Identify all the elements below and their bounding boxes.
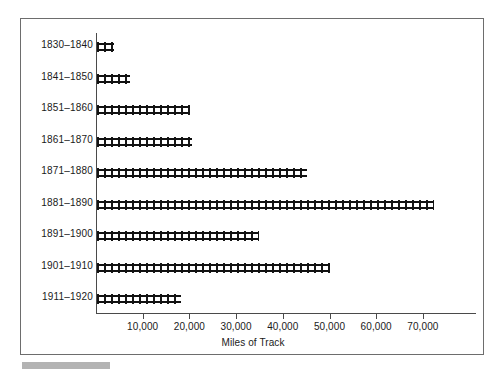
bar-row: 1861–1870 xyxy=(21,137,485,147)
bar-row: 1891–1900 xyxy=(21,231,485,241)
bar-row: 1830–1840 xyxy=(21,42,485,52)
category-label: 1881–1890 xyxy=(41,197,93,208)
caption-swatch xyxy=(22,362,110,369)
x-tick-label-40000: 40,000 xyxy=(267,321,298,332)
x-tick-60000 xyxy=(376,314,377,319)
chart-frame: 10,00020,00030,00040,00050,00060,00070,0… xyxy=(20,18,484,355)
bar xyxy=(97,74,130,84)
x-tick-label-60000: 60,000 xyxy=(361,321,392,332)
category-label: 1901–1910 xyxy=(41,260,93,271)
x-tick-label-70000: 70,000 xyxy=(407,321,438,332)
x-axis-line xyxy=(96,313,476,314)
bar xyxy=(97,168,307,178)
x-tick-label-20000: 20,000 xyxy=(174,321,205,332)
bar-row: 1841–1850 xyxy=(21,74,485,84)
category-label: 1830–1840 xyxy=(41,39,93,50)
bar-row: 1901–1910 xyxy=(21,263,485,273)
bar xyxy=(97,200,434,210)
category-label: 1841–1850 xyxy=(41,71,93,82)
plot-area: 10,00020,00030,00040,00050,00060,00070,0… xyxy=(21,19,485,356)
x-tick-label-50000: 50,000 xyxy=(314,321,345,332)
bar-row: 1871–1880 xyxy=(21,168,485,178)
x-tick-50000 xyxy=(330,314,331,319)
x-axis-title: Miles of Track xyxy=(21,337,485,348)
bar xyxy=(97,294,181,304)
x-tick-label-30000: 30,000 xyxy=(221,321,252,332)
bar xyxy=(97,105,190,115)
chart-page: 10,00020,00030,00040,00050,00060,00070,0… xyxy=(0,0,500,371)
bar-row: 1911–1920 xyxy=(21,294,485,304)
x-tick-30000 xyxy=(236,314,237,319)
category-label: 1861–1870 xyxy=(41,134,93,145)
x-tick-10000 xyxy=(143,314,144,319)
bar xyxy=(97,137,192,147)
bar xyxy=(97,42,114,52)
bar-row: 1851–1860 xyxy=(21,105,485,115)
category-label: 1851–1860 xyxy=(41,102,93,113)
bar xyxy=(97,263,330,273)
bar xyxy=(97,231,259,241)
x-tick-20000 xyxy=(189,314,190,319)
bar-row: 1881–1890 xyxy=(21,200,485,210)
category-label: 1891–1900 xyxy=(41,228,93,239)
category-label: 1871–1880 xyxy=(41,165,93,176)
x-tick-70000 xyxy=(423,314,424,319)
category-label: 1911–1920 xyxy=(42,291,93,302)
x-tick-label-10000: 10,000 xyxy=(127,321,158,332)
x-tick-40000 xyxy=(283,314,284,319)
